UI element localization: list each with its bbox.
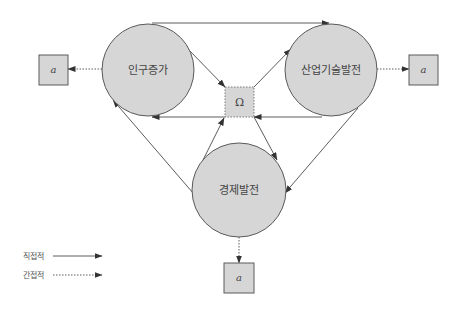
node-population-growth: 인구증가 [102, 24, 194, 116]
legend-direct: 직접적 [23, 251, 102, 261]
node-omega: Ω [225, 87, 254, 117]
output-right-label: a [421, 64, 427, 75]
economy-label: 경제발전 [219, 184, 259, 197]
node-output-bottom: a [224, 263, 254, 293]
population-label: 인구증가 [128, 64, 168, 77]
legend-direct-label: 직접적 [23, 251, 44, 261]
omega-label: Ω [235, 96, 244, 109]
legend: 직접적 간접적 [23, 251, 102, 280]
node-output-right: a [409, 55, 438, 85]
output-bottom-label: a [236, 272, 242, 283]
causal-diagram: 인구증가 산업기술발전 경제발전 Ω a a a 직접적 간접적 [0, 0, 458, 311]
industry-label: 산업기술발전 [301, 64, 361, 77]
legend-indirect: 간접적 [23, 270, 102, 280]
legend-indirect-label: 간접적 [23, 270, 44, 280]
edge-industry-to-economy [285, 108, 358, 193]
node-output-left: a [39, 55, 68, 85]
node-industrial-technology: 산업기술발전 [285, 24, 377, 116]
node-economic-development: 경제발전 [192, 143, 286, 237]
output-left-label: a [51, 64, 57, 75]
